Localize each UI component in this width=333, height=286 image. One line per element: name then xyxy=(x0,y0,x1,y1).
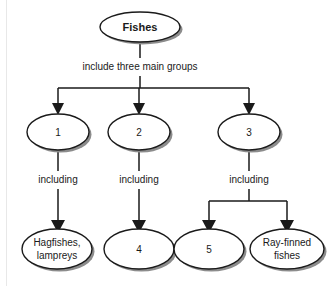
node-fishes-label: Fishes xyxy=(123,21,158,33)
concept-map-diagram: Fishes include three main groups 1 2 3 i… xyxy=(0,0,333,286)
node-group-3-label: 3 xyxy=(246,127,252,138)
node-leaf-5[interactable]: 5 xyxy=(174,229,247,272)
node-group-3[interactable]: 3 xyxy=(218,114,283,153)
edge-label-including-3: including xyxy=(229,174,268,185)
arrowhead-group-2 xyxy=(133,103,145,115)
node-rayfinned-label-line1: Ray-finned xyxy=(263,237,311,248)
node-fishes[interactable]: Fishes xyxy=(100,12,183,45)
diagram-page: Fishes include three main groups 1 2 3 i… xyxy=(0,0,333,286)
edge-label-including-2: including xyxy=(119,174,158,185)
node-leaf-4[interactable]: 4 xyxy=(104,229,177,272)
node-leaf-4-label: 4 xyxy=(136,244,142,255)
node-group-2[interactable]: 2 xyxy=(108,114,173,153)
node-ray-finned-fishes[interactable]: Ray-finned fishes xyxy=(250,229,327,272)
node-group-1[interactable]: 1 xyxy=(27,114,92,153)
node-group-2-label: 2 xyxy=(136,127,142,138)
edge-label-root: include three main groups xyxy=(82,61,197,72)
arrowhead-group-1 xyxy=(52,103,64,115)
node-hagfishes-lampreys[interactable]: Hagfishes, lampreys xyxy=(22,229,95,272)
node-rayfinned-label-line2: fishes xyxy=(274,250,300,261)
node-leaf-5-label: 5 xyxy=(206,244,212,255)
node-hagfishes-label-line1: Hagfishes, xyxy=(33,237,80,248)
edge-label-including-1: including xyxy=(38,174,77,185)
node-group-1-label: 1 xyxy=(55,127,61,138)
arrowhead-group-3 xyxy=(243,103,255,115)
node-hagfishes-label-line2: lampreys xyxy=(37,250,78,261)
